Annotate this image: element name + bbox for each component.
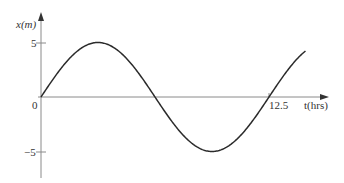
y-tick-label-5: 5: [31, 37, 37, 49]
sine-wave-chart: x(m) 5 −5 0 12.5 t(hrs): [0, 0, 344, 183]
x-axis-label: t(hrs): [304, 99, 328, 112]
y-axis-arrow-icon: [38, 12, 44, 21]
y-axis-label: x(m): [15, 18, 36, 31]
x-tick-label-12-5: 12.5: [269, 99, 289, 111]
origin-label: 0: [32, 99, 38, 111]
y-tick-label-neg5: −5: [24, 146, 36, 158]
